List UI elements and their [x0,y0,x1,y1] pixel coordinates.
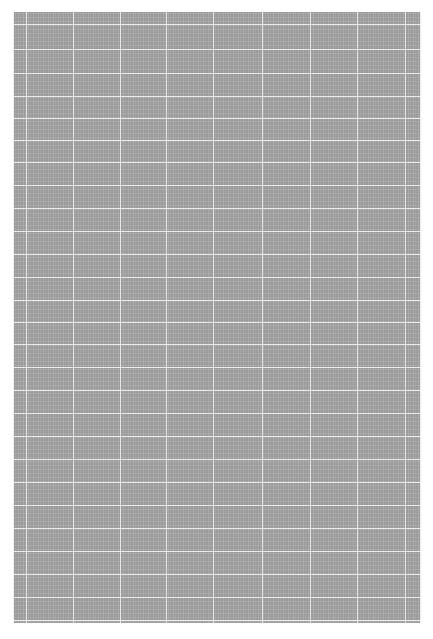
table-row-rule [13,574,421,575]
table-row-rule [13,528,421,529]
table-column-rule [120,12,121,623]
table-row-rule [13,367,421,368]
table-row-rule [13,551,421,552]
table-row-rule [13,413,421,414]
table-row-rule [13,185,421,186]
table-row-rule [13,254,421,255]
table-column-rule [166,12,167,623]
table-row-rule [13,505,421,506]
text-grain-texture [13,12,421,623]
table-row-rule [13,344,421,345]
document-text-block [13,12,421,623]
table-column-rule [310,12,311,623]
document-page [0,0,433,639]
table-row-rule [13,300,421,301]
table-column-rule [405,12,406,623]
table-row-rule [13,96,421,97]
table-row-rule [13,73,421,74]
table-row-rule [13,597,421,598]
table-row-rule [13,24,421,25]
table-row-rule [13,459,421,460]
table-column-rule [262,12,263,623]
left-margin-gutter [13,12,14,623]
table-row-rule [13,277,421,278]
right-margin-gutter [420,12,421,623]
table-row-rule [13,620,421,621]
table-row-rule [13,49,421,50]
table-row-rule [13,162,421,163]
table-column-rule [26,12,27,623]
table-row-rule [13,231,421,232]
table-column-rule [213,12,214,623]
table-row-rule [13,140,421,141]
table-row-rule [13,322,421,323]
table-column-rule [357,12,358,623]
table-row-rule [13,208,421,209]
table-row-rule [13,482,421,483]
table-row-rule [13,436,421,437]
table-column-rule [73,12,74,623]
table-row-rule [13,118,421,119]
table-row-rule [13,390,421,391]
